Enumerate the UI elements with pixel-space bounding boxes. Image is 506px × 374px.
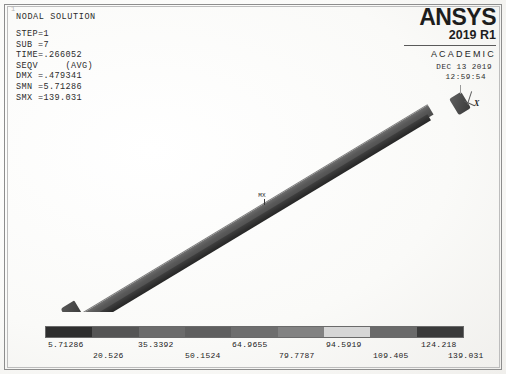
colorbar-label-2: 35.3392 bbox=[138, 340, 174, 349]
colorbar-band-3 bbox=[139, 327, 185, 337]
colorbar-band-8 bbox=[370, 327, 416, 337]
colorbar-band-1 bbox=[46, 327, 92, 337]
beam-top-face bbox=[78, 104, 434, 312]
colorbar-label-9: 139.031 bbox=[448, 351, 484, 360]
colorbar-label-1: 20.526 bbox=[93, 351, 124, 360]
colorbar-label-4: 64.9655 bbox=[232, 340, 268, 349]
origin-tick-icon bbox=[460, 85, 461, 94]
max-stress-marker-stem bbox=[264, 199, 265, 205]
max-stress-marker: MX bbox=[258, 192, 265, 198]
colorbar-label-0: 5.71286 bbox=[48, 340, 84, 349]
colorbar-band-6 bbox=[278, 327, 324, 337]
contour-colorbar bbox=[45, 326, 464, 338]
colorbar-tick-labels: 5.71286 20.526 35.3392 50.1524 64.9655 7… bbox=[8, 340, 499, 368]
colorbar-band-7 bbox=[324, 327, 370, 337]
ansys-plot-window: 1 NODAL SOLUTION STEP=1 SUB =7 TIME=.266… bbox=[0, 0, 506, 374]
axis-x-label: X bbox=[474, 99, 479, 108]
colorbar-label-6: 94.5919 bbox=[326, 340, 362, 349]
colorbar-label-7: 109.405 bbox=[373, 351, 409, 360]
colorbar-label-3: 50.1524 bbox=[185, 351, 221, 360]
model-viewport[interactable]: X MX bbox=[8, 7, 497, 312]
colorbar-label-8: 124.218 bbox=[421, 340, 457, 349]
colorbar-label-5: 79.7787 bbox=[279, 351, 315, 360]
colorbar-band-5 bbox=[231, 327, 277, 337]
colorbar-band-9 bbox=[417, 327, 463, 337]
colorbar-band-4 bbox=[185, 327, 231, 337]
colorbar-band-2 bbox=[92, 327, 138, 337]
beam-end-left bbox=[60, 300, 85, 312]
